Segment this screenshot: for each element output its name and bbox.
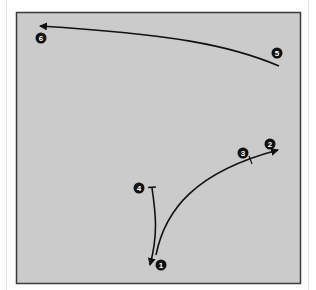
marker-4: 4 [134, 183, 145, 194]
marker-3-label: 3 [241, 149, 246, 158]
marker-1-label: 1 [159, 261, 164, 270]
marker-2-label: 2 [268, 140, 273, 149]
marker-4-label: 4 [137, 184, 142, 193]
marker-6-label: 6 [39, 34, 44, 43]
marker-2: 2 [265, 139, 276, 150]
movement-diagram: 1 2 3 4 5 6 [0, 0, 316, 290]
marker-1: 1 [156, 260, 167, 271]
marker-3: 3 [238, 148, 249, 159]
marker-5: 5 [272, 48, 283, 59]
marker-6: 6 [36, 33, 47, 44]
t-end-4 [148, 187, 156, 188]
marker-5-label: 5 [275, 49, 280, 58]
